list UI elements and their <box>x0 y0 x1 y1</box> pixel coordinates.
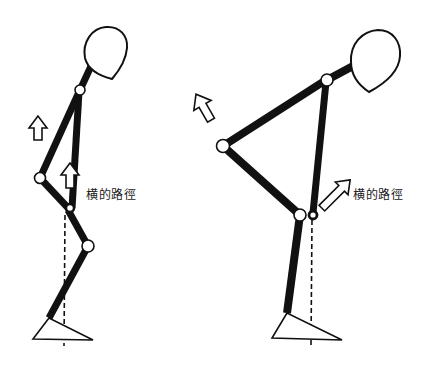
path-label-left: 横的路徑 <box>86 185 136 202</box>
shoulder-joint <box>75 85 85 95</box>
leg <box>287 215 300 313</box>
hip-joint <box>66 204 74 212</box>
lifting-posture-diagram <box>0 0 426 368</box>
shoulder-joint <box>321 74 333 86</box>
path-label-right: 横的路徑 <box>353 185 403 202</box>
foot <box>272 313 342 340</box>
upper-arm <box>223 80 326 146</box>
knee-joint <box>82 240 94 252</box>
arrow-up-icon <box>29 116 47 140</box>
arrow-up-left-icon <box>187 89 219 125</box>
hand-joint <box>217 140 230 153</box>
head <box>351 30 400 92</box>
hand-joint <box>35 173 46 184</box>
knee-joint <box>294 209 306 221</box>
arrow-up-right-icon <box>315 173 356 214</box>
hip-joint <box>309 211 317 219</box>
trunk <box>313 82 326 213</box>
foot <box>33 318 93 340</box>
forearm <box>223 146 300 215</box>
shank <box>49 246 88 318</box>
